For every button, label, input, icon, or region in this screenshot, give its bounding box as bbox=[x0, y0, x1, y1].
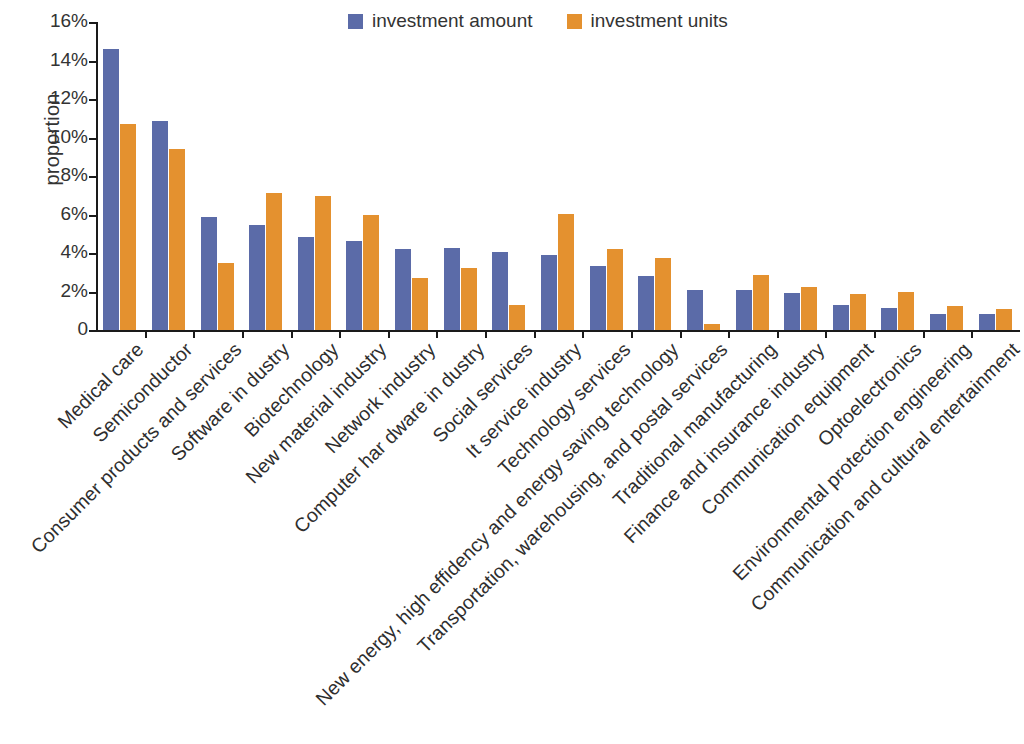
x-axis-tick-label: Communication and cultural entertainment bbox=[746, 338, 1024, 616]
y-axis-tick-label: 0 bbox=[36, 319, 88, 338]
x-axis-line bbox=[96, 330, 1020, 332]
y-axis-tick-mark bbox=[89, 61, 97, 63]
bar bbox=[947, 306, 963, 330]
y-axis-tick-mark bbox=[89, 138, 97, 140]
bar bbox=[169, 149, 185, 330]
x-axis-tick-mark bbox=[923, 330, 925, 338]
x-axis-tick-label: Software in dustry bbox=[167, 338, 295, 466]
bar bbox=[881, 308, 897, 330]
x-axis-tick-label: Environmental protection engineering bbox=[728, 338, 975, 585]
bar bbox=[687, 290, 703, 330]
x-axis-tick-label: New energy, high effidency and energy sa… bbox=[311, 338, 683, 710]
y-axis-tick-mark bbox=[89, 253, 97, 255]
x-axis-tick-label: Optoelectronics bbox=[814, 338, 927, 451]
y-axis-tick-label: 6% bbox=[36, 204, 88, 223]
x-axis-tick-mark bbox=[291, 330, 293, 338]
bar bbox=[638, 276, 654, 330]
bar bbox=[298, 237, 314, 330]
plot-area bbox=[96, 22, 1020, 330]
bar bbox=[979, 314, 995, 330]
bar bbox=[996, 309, 1012, 330]
bar bbox=[444, 248, 460, 330]
x-axis-tick-mark bbox=[582, 330, 584, 338]
bar bbox=[461, 268, 477, 330]
bar bbox=[607, 249, 623, 330]
x-axis-tick-label: Finance and insurance industry bbox=[619, 338, 829, 548]
x-axis-tick-mark bbox=[631, 330, 633, 338]
y-axis-tick-labels: 02%4%6%8%10%12%14%16% bbox=[32, 0, 88, 744]
x-axis-tick-label: Technology services bbox=[493, 338, 635, 480]
bar bbox=[315, 196, 331, 330]
bar bbox=[120, 124, 136, 330]
x-axis-tick-mark bbox=[728, 330, 730, 338]
x-axis-tick-mark bbox=[388, 330, 390, 338]
x-axis-tick-label: Semiconductor bbox=[88, 338, 197, 447]
bar bbox=[801, 287, 817, 330]
bar-chart: investment amount investment units propo… bbox=[0, 0, 1024, 744]
x-axis-tick-mark bbox=[242, 330, 244, 338]
x-axis-tick-label: Communication equipment bbox=[696, 338, 878, 520]
bar bbox=[558, 214, 574, 330]
x-axis-tick-label: Traditional manufacturing bbox=[608, 338, 781, 511]
y-axis-tick-label: 8% bbox=[36, 165, 88, 184]
y-axis-tick-label: 16% bbox=[36, 11, 88, 30]
bar bbox=[930, 314, 946, 330]
bar bbox=[753, 275, 769, 330]
x-axis-tick-mark bbox=[680, 330, 682, 338]
bar bbox=[346, 241, 362, 330]
x-axis-tick-mark bbox=[825, 330, 827, 338]
x-axis-tick-mark bbox=[971, 330, 973, 338]
y-axis-tick-mark bbox=[89, 330, 97, 332]
x-axis-tick-label: It service industry bbox=[461, 338, 586, 463]
bar bbox=[704, 324, 720, 330]
x-axis-tick-mark bbox=[777, 330, 779, 338]
x-axis-tick-label: Biotechnology bbox=[239, 338, 343, 442]
bar bbox=[249, 225, 265, 330]
x-axis-tick-label: Computer har dware in dustry bbox=[289, 338, 489, 538]
bar bbox=[898, 292, 914, 331]
bar bbox=[590, 266, 606, 330]
y-axis-tick-label: 14% bbox=[36, 50, 88, 69]
x-axis-tick-label: Network industry bbox=[320, 338, 440, 458]
y-axis-tick-mark bbox=[89, 292, 97, 294]
y-axis-tick-mark bbox=[89, 99, 97, 101]
y-axis-tick-mark bbox=[89, 22, 97, 24]
bar bbox=[784, 293, 800, 330]
y-axis-tick-label: 2% bbox=[36, 281, 88, 300]
bar bbox=[412, 278, 428, 330]
x-axis-tick-mark bbox=[339, 330, 341, 338]
bar bbox=[201, 217, 217, 330]
bar bbox=[850, 294, 866, 330]
bar bbox=[736, 290, 752, 330]
y-axis-tick-label: 10% bbox=[36, 127, 88, 146]
bars-layer bbox=[96, 22, 1020, 330]
y-axis-tick-label: 12% bbox=[36, 88, 88, 107]
bar bbox=[509, 305, 525, 330]
bar bbox=[833, 305, 849, 330]
bar bbox=[363, 215, 379, 330]
y-axis-tick-label: 4% bbox=[36, 242, 88, 261]
x-axis-tick-mark bbox=[436, 330, 438, 338]
x-axis-tick-label: Transportation, warehousing, and postal … bbox=[413, 338, 733, 658]
y-axis-tick-mark bbox=[89, 215, 97, 217]
bar bbox=[655, 258, 671, 330]
y-axis-tick-mark bbox=[89, 176, 97, 178]
x-axis-tick-mark bbox=[145, 330, 147, 338]
x-axis-tick-mark bbox=[485, 330, 487, 338]
bar bbox=[152, 121, 168, 330]
x-axis-tick-label: Social services bbox=[428, 338, 537, 447]
x-axis-tick-label: New material industry bbox=[241, 338, 391, 488]
x-axis-tick-mark bbox=[874, 330, 876, 338]
bar bbox=[266, 193, 282, 330]
bar bbox=[103, 49, 119, 330]
bar bbox=[395, 249, 411, 330]
bar bbox=[218, 263, 234, 330]
bar bbox=[492, 252, 508, 330]
x-axis-tick-mark bbox=[193, 330, 195, 338]
bar bbox=[541, 255, 557, 330]
x-axis-tick-mark bbox=[534, 330, 536, 338]
